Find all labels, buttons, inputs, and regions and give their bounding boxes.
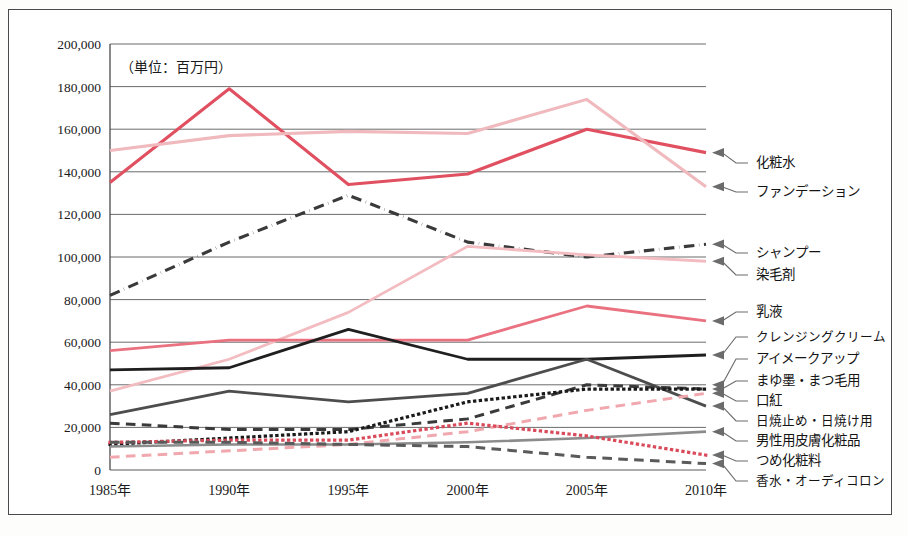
line-chart: 020,00040,00060,00080,000100,000120,0001… [0,0,908,536]
callout-arrowhead [712,316,724,325]
callout-leader-line [722,393,748,401]
y-tick-label: 20,000 [64,420,101,435]
callout-leader-line [722,261,748,275]
callout-leader-line [722,432,748,441]
callout-leader-line [722,406,748,421]
legend-label: 口紅 [756,392,782,408]
legend-label: クレンジングクリーム [756,329,886,344]
y-tick-label: 60,000 [64,335,101,350]
series-line [110,432,706,447]
callout-arrowhead [712,148,724,157]
chart-page: 020,00040,00060,00080,000100,000120,0001… [0,0,908,536]
callout-arrowhead [712,402,724,411]
legend-label: 化粧水 [756,154,796,170]
legend-label: シャンプー [756,244,821,260]
legend-label: まゆ墨・まつ毛用 [756,372,860,388]
callout-arrowhead [712,257,724,266]
y-tick-label: 120,000 [57,207,101,222]
callout-leader-line [722,244,748,253]
y-axis-tick-labels: 020,00040,00060,00080,000100,000120,0001… [57,37,101,478]
legend-label: 男性用皮膚化粧品 [756,432,860,448]
callout-arrowhead [712,459,724,468]
x-tick-label: 2005年 [566,483,608,498]
series-line [110,89,706,185]
callout-leader-line [722,464,748,481]
legend-label: 日焼止め・日焼け用 [756,413,873,428]
callout-leader-line [722,312,748,321]
y-tick-label: 140,000 [57,165,101,180]
callout-leader-line [722,337,748,355]
series-line [110,423,706,455]
series-line [110,393,706,457]
callout-arrowhead [712,182,724,191]
callout-leader-line [722,455,748,461]
x-axis-tick-labels: 1985年1990年1995年2000年2005年2010年 [89,483,727,498]
callout-arrowhead [712,240,724,249]
callout-arrowhead [712,450,724,459]
y-tick-label: 40,000 [64,378,101,393]
y-tick-label: 160,000 [57,122,101,137]
legend-callouts: 化粧水ファンデーションシャンプー染毛剤乳液クレンジングクリームアイメークアップま… [712,148,886,487]
callout-arrowhead [712,350,724,359]
callout-arrowhead [712,427,724,436]
callout-leader-line [722,153,748,163]
y-tick-label: 0 [94,463,101,478]
legend-label: 香水・オーディコロン [756,473,885,488]
y-tick-label: 80,000 [64,293,101,308]
series-line [110,329,706,369]
legend-label: ファンデーション [756,183,860,199]
legend-label: 染毛剤 [756,266,795,282]
callout-leader-line [722,187,748,192]
x-tick-label: 2000年 [447,483,489,498]
data-series-group [110,89,706,464]
legend-label: 乳液 [756,303,783,319]
callout-leader-line [722,381,748,389]
y-tick-label: 180,000 [57,80,101,95]
x-tick-label: 1995年 [327,483,369,498]
y-tick-label: 200,000 [57,37,101,52]
y-tick-label: 100,000 [57,250,101,265]
x-tick-label: 1990年 [208,483,250,498]
x-tick-label: 2010年 [685,483,727,498]
unit-note: （単位：百万円） [120,59,232,75]
legend-label: アイメークアップ [756,350,860,366]
legend-label: つめ化粧料 [756,452,822,468]
x-tick-label: 1985年 [89,483,131,498]
